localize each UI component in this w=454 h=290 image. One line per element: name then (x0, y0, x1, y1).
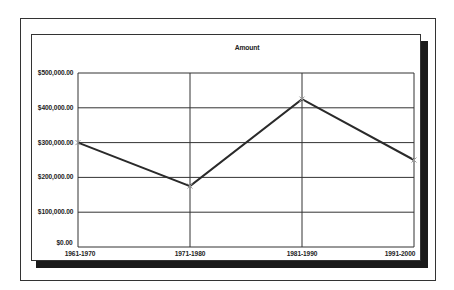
x-tick-label: 1971-1980 (161, 249, 218, 258)
y-tick-label: $200,000.00 (37, 172, 73, 181)
chart-title: Amount (226, 43, 269, 52)
y-tick-label: $0.00 (57, 238, 73, 247)
x-tick-label: 1961-1970 (51, 249, 108, 258)
x-tick-label: 1981-1990 (273, 249, 330, 258)
y-tick-label: $100,000.00 (37, 207, 73, 216)
y-tick-label: $400,000.00 (37, 103, 73, 112)
plot-grid (78, 73, 414, 247)
y-tick-label: $300,000.00 (37, 138, 73, 147)
y-tick-label: $500,000.00 (37, 68, 73, 77)
x-tick-label: 1991-2000 (371, 249, 428, 258)
